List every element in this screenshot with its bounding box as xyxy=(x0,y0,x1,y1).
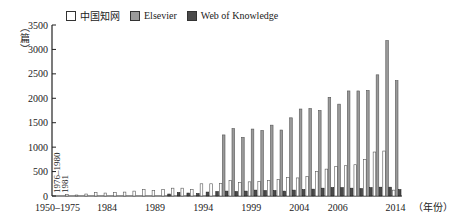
bar xyxy=(373,152,376,196)
bar xyxy=(392,190,395,196)
bar xyxy=(254,190,257,196)
bar xyxy=(200,184,203,196)
bar xyxy=(341,188,344,196)
bar-chart: 05001000150020002500300035001950–1975198… xyxy=(0,0,459,221)
y-tick-label: 3000 xyxy=(28,44,48,55)
bar xyxy=(299,109,302,196)
bar xyxy=(114,193,117,196)
bar xyxy=(277,179,280,196)
bar xyxy=(290,118,293,196)
bar xyxy=(283,191,286,196)
bar xyxy=(162,190,165,196)
bar xyxy=(248,182,251,196)
bar xyxy=(143,190,146,196)
bar xyxy=(210,184,213,196)
rotated-annotation: 1981 xyxy=(60,175,70,193)
bar xyxy=(270,125,273,196)
x-tick-label: 2014 xyxy=(385,202,405,213)
x-axis-label: （年份） xyxy=(413,201,453,213)
bar xyxy=(383,151,386,196)
bar xyxy=(395,81,398,196)
y-tick-label: 1000 xyxy=(28,142,48,153)
bar xyxy=(216,192,219,196)
bar xyxy=(177,193,180,196)
bar xyxy=(222,135,225,196)
bar xyxy=(225,191,228,196)
bar xyxy=(66,195,69,196)
bar xyxy=(264,191,267,196)
x-tick-label: 2004 xyxy=(289,202,309,213)
bar xyxy=(376,75,379,196)
bar xyxy=(347,91,350,196)
bar xyxy=(232,129,235,196)
y-tick-label: 500 xyxy=(33,166,48,177)
bar xyxy=(197,194,200,196)
bar xyxy=(133,191,136,196)
bar xyxy=(123,192,126,196)
bar xyxy=(312,189,315,196)
y-tick-label: 2000 xyxy=(28,93,48,104)
bar xyxy=(319,111,322,197)
bar xyxy=(331,188,334,196)
bar xyxy=(85,194,88,196)
x-tick-label: 1984 xyxy=(97,202,117,213)
bar xyxy=(322,188,325,196)
bar xyxy=(171,188,174,196)
bar xyxy=(350,188,353,196)
bar xyxy=(261,131,264,196)
bar xyxy=(251,129,254,196)
bar xyxy=(273,191,276,196)
bar xyxy=(235,192,238,196)
bar xyxy=(191,190,194,196)
bar xyxy=(219,183,222,196)
bar xyxy=(306,176,309,196)
x-tick-label: 1999 xyxy=(241,202,261,213)
x-tick-label: 1989 xyxy=(145,202,165,213)
bar xyxy=(344,166,347,196)
bar xyxy=(370,188,373,196)
bar xyxy=(325,169,328,196)
bar xyxy=(386,41,389,196)
bar xyxy=(229,180,232,196)
bar xyxy=(152,191,155,196)
bar xyxy=(367,90,370,196)
bar xyxy=(104,193,107,196)
bar xyxy=(296,178,299,196)
bar xyxy=(242,137,245,196)
y-tick-label: 1500 xyxy=(28,117,48,128)
x-tick-label: 1950–1975 xyxy=(35,202,80,213)
bar xyxy=(379,187,382,196)
bar xyxy=(287,177,290,196)
bar xyxy=(206,192,209,196)
bar xyxy=(239,182,242,196)
bar xyxy=(75,195,78,196)
bar xyxy=(309,109,312,196)
bar xyxy=(181,188,184,196)
bar xyxy=(328,97,331,196)
bar xyxy=(360,189,363,196)
bar xyxy=(338,104,341,196)
bar xyxy=(316,172,319,196)
bar xyxy=(335,167,338,196)
bar xyxy=(94,193,97,196)
bar xyxy=(267,180,270,196)
bar xyxy=(280,130,283,196)
bar xyxy=(168,194,171,196)
x-tick-label: 2006 xyxy=(328,202,348,213)
bar xyxy=(245,191,248,196)
x-tick-label: 1994 xyxy=(193,202,213,213)
y-tick-label: 3500 xyxy=(28,20,48,31)
bar xyxy=(293,190,296,196)
bar xyxy=(302,190,305,196)
y-tick-label: 0 xyxy=(43,191,48,202)
bar xyxy=(398,190,401,196)
bar xyxy=(354,165,357,196)
bar xyxy=(187,193,190,196)
bar xyxy=(258,181,261,196)
y-tick-label: 2500 xyxy=(28,68,48,79)
bar xyxy=(389,187,392,196)
bar xyxy=(364,159,367,196)
bar xyxy=(357,91,360,196)
